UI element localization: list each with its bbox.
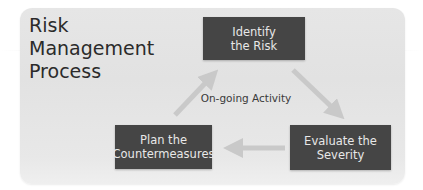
node-label-line: Identify [231,25,277,39]
node-evaluate-the-severity: Evaluate the Severity [290,125,391,170]
node-label-line: Severity [304,148,377,162]
node-label-line: Evaluate the [304,134,377,148]
node-label-line: the Risk [231,39,277,53]
ongoing-activity-label: On-going Activity [200,92,292,104]
node-label-line: Countermeasures [113,147,215,161]
node-label-line: Plan the [113,133,215,147]
node-plan-the-countermeasures: Plan the Countermeasures [115,125,212,169]
arrow-identify-to-evaluate [293,70,338,113]
node-identify-the-risk: Identify the Risk [203,17,305,60]
